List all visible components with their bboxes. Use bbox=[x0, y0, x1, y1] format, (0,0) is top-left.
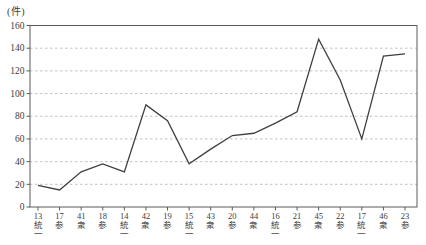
x-tick-label: 参 bbox=[163, 220, 172, 230]
x-tick-label: 参 bbox=[55, 220, 64, 230]
x-tick-label: 一 bbox=[357, 229, 366, 239]
x-tick-label: 一 bbox=[120, 229, 129, 239]
x-tick-label: 衆 bbox=[77, 220, 86, 230]
x-tick-label: 衆 bbox=[314, 220, 323, 230]
x-tick-label: 衆 bbox=[379, 220, 388, 230]
y-tick-label: 20 bbox=[15, 180, 25, 190]
y-tick-label: 0 bbox=[20, 202, 25, 212]
line-chart: (件) 02040608010012014016013統一17参41衆18参14… bbox=[0, 0, 426, 245]
y-tick-label: 100 bbox=[10, 89, 25, 99]
x-tick-label: 参 bbox=[401, 220, 410, 230]
x-tick-label: 一 bbox=[34, 229, 43, 239]
y-tick-label: 120 bbox=[10, 66, 25, 76]
plot-frame bbox=[30, 26, 417, 208]
x-tick-label: 衆 bbox=[141, 220, 150, 230]
x-tick-label: 参 bbox=[293, 220, 302, 230]
y-tick-label: 140 bbox=[10, 43, 25, 53]
x-tick-label: 参 bbox=[336, 220, 345, 230]
x-tick-label: 参 bbox=[98, 220, 107, 230]
x-tick-label: 参 bbox=[228, 220, 237, 230]
x-tick-label: 衆 bbox=[206, 220, 215, 230]
x-tick-label: 衆 bbox=[249, 220, 258, 230]
data-line bbox=[38, 39, 405, 190]
chart-canvas: 02040608010012014016013統一17参41衆18参14統一42… bbox=[0, 0, 426, 245]
y-tick-label: 60 bbox=[15, 134, 25, 144]
x-tick-label: 一 bbox=[185, 229, 194, 239]
y-tick-label: 160 bbox=[10, 21, 25, 31]
y-tick-label: 80 bbox=[15, 111, 25, 121]
x-tick-label: 一 bbox=[271, 229, 280, 239]
y-tick-label: 40 bbox=[15, 157, 25, 167]
